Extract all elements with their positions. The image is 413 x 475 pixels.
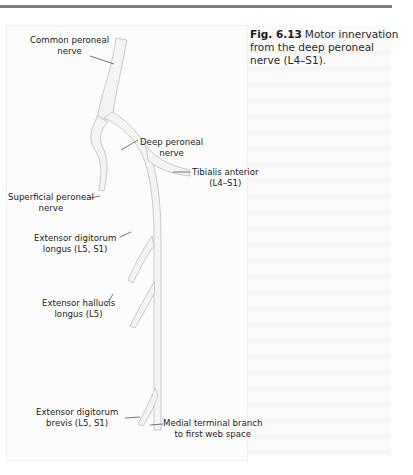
- label-deep-peroneal-nerve: Deep peroneal nerve: [140, 137, 203, 158]
- label-line: Extensor hallucis: [42, 298, 115, 309]
- label-medial-terminal-branch: Medial terminal branch to first web spac…: [163, 418, 262, 439]
- label-extensor-hallucis-longus: Extensor hallucis longus (L5): [42, 298, 115, 319]
- label-line: Extensor digitorum: [36, 407, 118, 418]
- label-superficial-peroneal-nerve: Superficial peroneal nerve: [8, 192, 94, 213]
- label-tibialis-anterior: Tibialis anterior (L4–S1): [192, 167, 259, 188]
- label-line: nerve: [8, 203, 94, 214]
- label-extensor-digitorum-brevis: Extensor digitorum brevis (L5, S1): [36, 407, 118, 428]
- label-line: Tibialis anterior: [192, 167, 259, 178]
- leader-deep: [121, 140, 138, 150]
- label-line: longus (L5, S1): [34, 244, 116, 255]
- label-line: Medial terminal branch: [163, 418, 262, 429]
- ehl-branch: [130, 282, 155, 328]
- label-line: brevis (L5, S1): [36, 418, 118, 429]
- label-line: nerve: [140, 148, 203, 159]
- label-line: Superficial peroneal: [8, 192, 94, 203]
- label-line: Deep peroneal: [140, 137, 203, 148]
- label-line: nerve: [30, 46, 109, 57]
- edl-branch: [128, 236, 154, 283]
- superficial-peroneal-nerve: [91, 116, 108, 191]
- label-line: Common peroneal: [30, 35, 109, 46]
- label-line: to first web space: [163, 429, 262, 440]
- label-extensor-digitorum-longus: Extensor digitorum longus (L5, S1): [34, 233, 116, 254]
- label-line: longus (L5): [42, 309, 115, 320]
- label-line: Extensor digitorum: [34, 233, 116, 244]
- label-line: (L4–S1): [192, 178, 259, 189]
- label-common-peroneal-nerve: Common peroneal nerve: [30, 35, 109, 56]
